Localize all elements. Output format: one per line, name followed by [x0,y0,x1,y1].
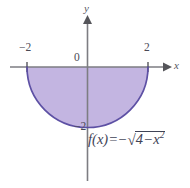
formula-radical: √4−x2 [127,131,166,147]
formula-equals: = [108,131,118,147]
x-tick-label-negative-two: −2 [19,42,31,54]
x-axis-label: x [174,60,179,71]
y-tick-label-negative-two: −2 [74,121,86,133]
x-axis-arrow-icon [163,63,172,72]
radicand-exponent: 2 [160,130,165,140]
y-axis-arrow-icon [83,15,92,24]
function-formula: f(x)=−√4−x2 [88,131,165,147]
radicand-constant: 4 [136,131,143,147]
formula-radicand: 4−x2 [135,131,166,147]
origin-label: 0 [74,52,80,64]
y-axis-label: y [84,3,89,14]
radicand-minus: − [143,131,153,147]
formula-leading-minus: − [118,131,126,147]
x-tick-label-two: 2 [144,42,150,54]
function-graph-figure: y x −2 2 0 −2 f(x)=−√4−x2 [0,0,190,188]
graph-canvas [0,0,190,188]
